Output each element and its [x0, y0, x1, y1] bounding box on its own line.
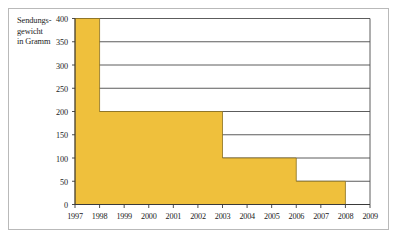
x-tick-marks-group — [75, 205, 370, 209]
chart-plot-area: Sendungs- gewicht in Gramm 400 350 300 2… — [0, 0, 399, 247]
figure-container: Sendungs- gewicht in Gramm 400 350 300 2… — [0, 0, 399, 247]
step-area-chart — [0, 0, 399, 247]
